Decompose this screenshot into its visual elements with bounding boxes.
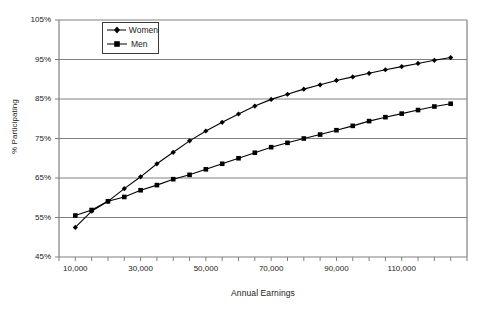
data-point-women <box>383 67 388 72</box>
data-point-women <box>350 74 355 79</box>
data-point-men <box>302 136 307 141</box>
legend-item-women[interactable]: Women <box>103 23 158 37</box>
x-tick-label: 70,000 <box>247 265 295 273</box>
data-series-layer <box>73 55 454 230</box>
data-point-men <box>138 188 143 193</box>
data-point-men <box>253 150 258 155</box>
x-tick-label: 30,000 <box>117 265 165 273</box>
data-point-men <box>448 101 453 106</box>
gridlines <box>59 60 467 218</box>
data-point-women <box>318 82 323 87</box>
data-point-women <box>432 58 437 63</box>
data-point-men <box>285 141 290 146</box>
y-tick-label: 85% <box>17 95 51 103</box>
data-point-men <box>383 115 388 120</box>
data-point-men <box>171 177 176 182</box>
legend-item-men[interactable]: Men <box>103 37 158 51</box>
x-tick-label: 50,000 <box>182 265 230 273</box>
series-line-men <box>75 104 450 216</box>
data-point-men <box>432 104 437 109</box>
data-point-men <box>187 173 192 178</box>
data-point-men <box>318 132 323 137</box>
data-point-men <box>155 183 160 188</box>
y-tick-label: 95% <box>17 56 51 64</box>
x-axis-title: Annual Earnings <box>59 288 467 298</box>
x-tick-label: 10,000 <box>51 265 99 273</box>
y-tick-label: 75% <box>17 135 51 143</box>
data-point-women <box>334 78 339 83</box>
legend-marker-men-icon <box>106 39 128 49</box>
axis-ticks <box>55 20 467 261</box>
legend-label-men: Men <box>131 39 148 49</box>
data-point-men <box>122 195 127 200</box>
data-point-men <box>416 108 421 113</box>
data-point-men <box>106 199 111 204</box>
data-point-women <box>415 61 420 66</box>
data-point-women <box>301 87 306 92</box>
chart-container: % Participating Annual Earnings 45%55%65… <box>0 0 487 314</box>
data-point-women <box>366 71 371 76</box>
data-point-women <box>285 92 290 97</box>
y-tick-label: 105% <box>17 16 51 24</box>
data-point-women <box>220 120 225 125</box>
data-point-men <box>220 161 225 166</box>
data-point-men <box>89 208 94 213</box>
y-tick-label: 55% <box>17 214 51 222</box>
x-tick-label: 90,000 <box>312 265 360 273</box>
x-tick-label: 110,000 <box>378 265 426 273</box>
data-point-men <box>334 128 339 133</box>
data-point-men <box>367 119 372 124</box>
y-tick-label: 45% <box>17 253 51 261</box>
series-line-women <box>75 58 450 228</box>
data-point-men <box>350 124 355 129</box>
data-point-men <box>236 156 241 161</box>
data-point-men <box>204 167 209 172</box>
data-point-women <box>236 111 241 116</box>
legend: Women Men <box>102 22 159 54</box>
data-point-women <box>399 64 404 69</box>
legend-label-women: Women <box>129 25 158 35</box>
data-point-women <box>252 104 257 109</box>
data-point-men <box>73 213 78 218</box>
data-point-women <box>203 128 208 133</box>
y-axis-title: % Participating <box>10 77 19 177</box>
data-point-women <box>269 97 274 102</box>
legend-marker-women-icon <box>106 25 126 35</box>
data-point-men <box>269 145 274 150</box>
y-tick-label: 65% <box>17 174 51 182</box>
data-point-men <box>399 111 404 116</box>
